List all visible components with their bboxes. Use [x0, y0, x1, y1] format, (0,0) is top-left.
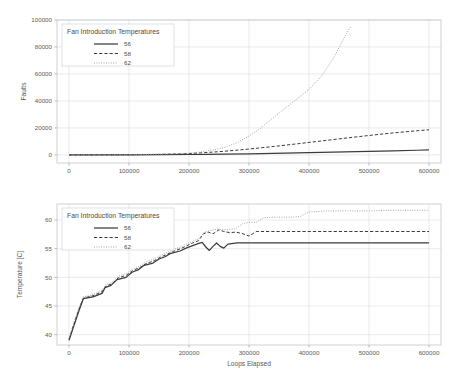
x-tick-label: 300000: [239, 349, 260, 356]
legend-title: Fan Introduction Temperatures: [67, 28, 160, 36]
x-axis-label: Loops Elapsed: [227, 360, 271, 368]
x-tick-label: 200000: [179, 167, 200, 174]
x-tick-label: 600000: [419, 167, 440, 174]
figure-canvas: 0100000200000300000400000500000600000 02…: [0, 0, 449, 381]
x-tick-label: 0: [67, 349, 71, 356]
y-tick-label: 60000: [35, 70, 53, 77]
y-tick-label: 40000: [35, 97, 53, 104]
legend-label-56: 56: [124, 224, 131, 231]
legend-label-62: 62: [124, 59, 131, 66]
y-tick-label: 45: [45, 302, 52, 309]
legend-label-58: 58: [124, 234, 131, 241]
x-tick-label: 600000: [419, 349, 440, 356]
faults-chart-panel: 0100000200000300000400000500000600000 02…: [0, 0, 449, 190]
temperature-plot-area: 0100000200000300000400000500000600000 40…: [0, 190, 449, 381]
legend-label-62: 62: [124, 243, 131, 250]
y-tick-label: 20000: [35, 124, 53, 131]
y-tick-label: 80000: [35, 43, 53, 50]
y-tick-label: 55: [45, 245, 52, 252]
y-tick-label: 0: [49, 151, 53, 158]
y-tick-label: 40: [45, 331, 52, 338]
legend-label-58: 58: [124, 50, 131, 57]
legend: Fan Introduction Temperatures565862: [62, 24, 174, 66]
x-tick-label: 400000: [299, 349, 320, 356]
legend-title: Fan Introduction Temperatures: [67, 212, 160, 220]
x-tick-label: 400000: [299, 167, 320, 174]
x-tick-label: 300000: [239, 167, 260, 174]
temperature-chart-panel: 0100000200000300000400000500000600000 40…: [0, 190, 449, 381]
legend-label-56: 56: [124, 40, 131, 47]
faults-plot-area: 0100000200000300000400000500000600000 02…: [0, 0, 449, 190]
x-tick-label: 100000: [119, 167, 140, 174]
faults-chart-svg: 0100000200000300000400000500000600000 02…: [0, 0, 449, 190]
x-tick-label: 500000: [359, 349, 380, 356]
temperature-chart-svg: 0100000200000300000400000500000600000 40…: [0, 190, 449, 381]
x-tick-label: 500000: [359, 167, 380, 174]
x-tick-label: 200000: [179, 349, 200, 356]
y-tick-label: 100000: [31, 16, 52, 23]
legend: Fan Introduction Temperatures565862: [62, 208, 174, 250]
y-tick-label: 60: [45, 216, 52, 223]
x-tick-label: 0: [67, 167, 71, 174]
y-axis-label: Faults: [20, 82, 27, 101]
y-axis-label: Temperature [C]: [16, 251, 24, 298]
x-tick-label: 100000: [119, 349, 140, 356]
y-tick-label: 50: [45, 274, 52, 281]
